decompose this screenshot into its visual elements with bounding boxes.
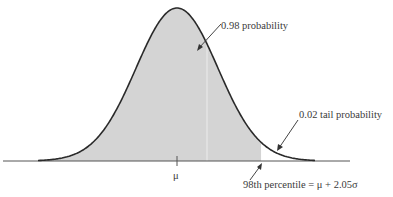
percentile-label: 98th percentile = μ + 2.05σ [243, 179, 358, 190]
center-probability-label: 0.98 probability [221, 20, 288, 31]
arrow-tail [279, 120, 298, 148]
normal-curve-diagram [0, 0, 393, 197]
arrow-tail-head [277, 144, 283, 151]
mean-label: μ [173, 170, 179, 181]
tail-probability-label: 0.02 tail probability [299, 109, 382, 120]
